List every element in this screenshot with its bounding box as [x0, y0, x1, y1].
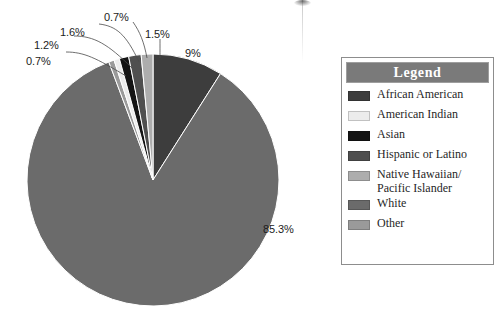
legend-item-list: African AmericanAmerican IndianAsianHisp…: [346, 88, 489, 235]
pie-chart-figure: 0.7%1.2%1.6%0.7%1.5%9%85.3% Legend Afric…: [0, 0, 504, 321]
legend-item[interactable]: African American: [348, 88, 489, 106]
legend-panel: Legend African AmericanAmerican IndianAs…: [341, 57, 494, 265]
legend-item-label: Asian: [377, 128, 405, 142]
legend-color-swatch: [348, 111, 370, 121]
legend-color-swatch: [348, 131, 370, 141]
legend-item-label: White: [377, 197, 406, 211]
legend-item[interactable]: Other: [348, 217, 489, 235]
legend-item[interactable]: Asian: [348, 128, 489, 146]
legend-color-swatch: [348, 220, 370, 230]
pie-value-label: 1.5%: [145, 28, 170, 40]
legend-color-swatch: [348, 171, 370, 181]
pie-value-label: 1.6%: [60, 26, 85, 38]
pie-value-label: 9%: [185, 47, 201, 59]
legend-item-label: American Indian: [377, 108, 458, 122]
legend-item-label: African American: [377, 88, 463, 102]
legend-item-label: Native Hawaiian/Pacific Islander: [377, 168, 461, 195]
legend-item[interactable]: American Indian: [348, 108, 489, 126]
legend-item[interactable]: Hispanic or Latino: [348, 148, 489, 166]
scan-seam-artifact: [302, 0, 303, 62]
legend-item-label-line2: Pacific Islander: [377, 182, 461, 196]
pie-value-label: 1.2%: [34, 39, 59, 51]
legend-color-swatch: [348, 91, 370, 101]
legend-color-swatch: [348, 200, 370, 210]
legend-color-swatch: [348, 151, 370, 161]
pie-value-label: 0.7%: [26, 55, 51, 67]
scan-smudge-artifact: [294, 0, 311, 6]
legend-item-label: Other: [377, 217, 404, 231]
pie-value-label: 0.7%: [104, 11, 129, 23]
legend-title: Legend: [346, 62, 489, 83]
legend-item[interactable]: Native Hawaiian/Pacific Islander: [348, 168, 489, 195]
legend-item[interactable]: White: [348, 197, 489, 215]
legend-item-label: Hispanic or Latino: [377, 148, 467, 162]
pie-slice-group: [27, 54, 279, 306]
pie-value-label: 85.3%: [263, 223, 294, 235]
